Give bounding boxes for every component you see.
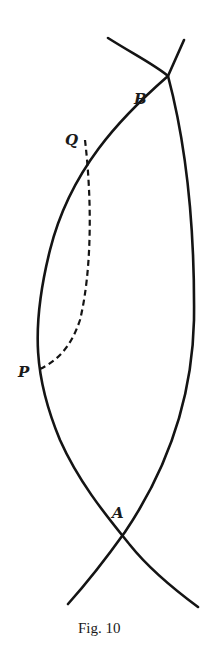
right-arc (68, 38, 194, 604)
label-p: P (17, 363, 30, 381)
label-a: A (110, 504, 124, 522)
figure-diagram: B Q P A Fig. 10 (0, 0, 205, 647)
figure-caption: Fig. 10 (78, 620, 121, 636)
label-b: B (133, 90, 147, 108)
label-q: Q (65, 131, 78, 149)
